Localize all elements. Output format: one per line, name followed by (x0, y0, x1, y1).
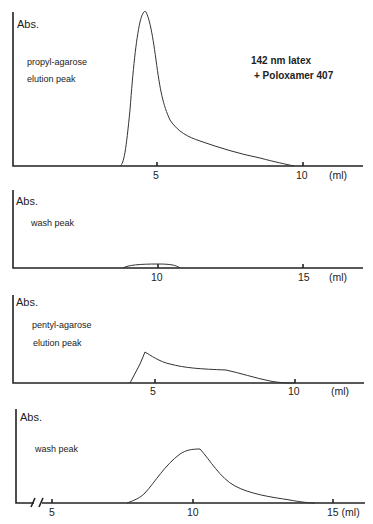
panel-1-ylabel: Abs. (17, 18, 39, 30)
x-tick-label: 15 (298, 271, 310, 283)
panel-2: Abs. wash peak 10 15 (ml) (13, 190, 363, 283)
panel-3: Abs. pentyl-agarose elution peak 5 10 (m… (13, 295, 364, 397)
x-unit-label: (ml) (329, 271, 347, 283)
panel-3-label-line2: elution peak (33, 338, 82, 348)
panel-4-label: wash peak (34, 444, 79, 454)
panel-2-ylabel: Abs. (16, 195, 38, 207)
panel-4-ylabel: Abs. (20, 411, 42, 423)
panel-4-curve (127, 449, 315, 503)
x-tick-label: 15 (ml) (327, 506, 360, 518)
panel-1: Abs. propyl-agarose elution peak 142 nm … (13, 11, 363, 181)
x-tick-label: 10 (187, 506, 199, 518)
x-tick-label: 10 (296, 169, 308, 181)
panel-2-axes (13, 190, 363, 268)
x-tick-label: 5 (150, 385, 156, 397)
panel-1-label-line2: elution peak (27, 74, 76, 84)
chromatogram-figure: Abs. propyl-agarose elution peak 142 nm … (0, 0, 373, 524)
panel-3-curve (130, 352, 295, 383)
panel-3-ylabel: Abs. (16, 296, 38, 308)
panel-2-label: wash peak (30, 218, 75, 228)
panel-3-label-line1: pentyl-agarose (32, 320, 92, 330)
panel-1-axes (13, 12, 363, 166)
annotation-line2: + Poloxamer 407 (254, 70, 334, 81)
x-unit-label: (ml) (329, 169, 347, 181)
panel-1-label-line1: propyl-agarose (27, 57, 87, 67)
panel-4: Abs. wash peak 5 10 15 (ml) (16, 409, 365, 518)
panel-1-curve (120, 11, 294, 166)
x-tick-label: 5 (49, 506, 55, 518)
annotation-line1: 142 nm latex (251, 55, 311, 66)
x-unit-label: (ml) (331, 385, 349, 397)
panel-4-axes-left (16, 409, 34, 503)
x-tick-label: 10 (151, 271, 163, 283)
x-tick-label: 5 (153, 169, 159, 181)
x-tick-label: 10 (288, 385, 300, 397)
